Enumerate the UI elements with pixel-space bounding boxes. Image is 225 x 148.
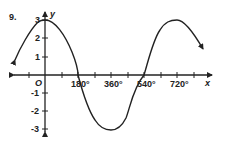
graph: 9. y x O 3 2 1 -1 -2 -3 180° 360° 540° 7… [0,0,225,148]
y-tick-label: -2 [31,106,39,116]
problem-number: 9. [9,12,17,22]
x-tick-label: 540° [137,79,156,89]
y-tick-label: -1 [31,88,39,98]
y-tick-label: 2 [35,33,40,43]
y-tick-label: 1 [35,52,40,62]
x-axis-label: x [204,78,211,88]
y-tick-label: -3 [31,124,39,134]
origin-label: O [35,78,42,88]
y-axis-label: y [49,9,56,19]
y-tick-label: 3 [35,15,40,25]
x-tick-label: 720° [170,79,189,89]
x-tick-label: 180° [71,79,90,89]
x-tick-label: 360° [104,79,123,89]
